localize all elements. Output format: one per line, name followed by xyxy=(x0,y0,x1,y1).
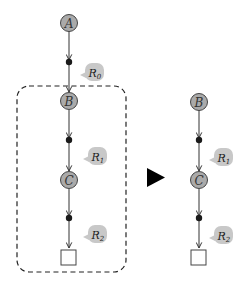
annotation-r1: R1 xyxy=(83,147,107,165)
right-chain: B R1 C R2 xyxy=(191,94,234,266)
annotation-r0: R0 xyxy=(80,63,104,81)
r2-label: R xyxy=(91,229,100,242)
right-dot-r1 xyxy=(196,137,202,143)
right-node-c: C xyxy=(191,172,208,189)
dot-r0 xyxy=(66,59,72,65)
node-c: C xyxy=(61,172,78,189)
r0-label: R xyxy=(88,67,97,80)
dot-r2 xyxy=(66,215,72,221)
node-a: A xyxy=(61,15,78,32)
right-r2-sub: 2 xyxy=(225,236,231,244)
right-dot-r2 xyxy=(196,215,202,221)
right-end-node-square xyxy=(191,250,206,265)
r0-sub: 0 xyxy=(97,73,102,81)
right-r1-sub: 1 xyxy=(226,158,230,166)
end-node-square xyxy=(61,250,76,265)
node-b-label: B xyxy=(64,95,74,109)
right-node-b: B xyxy=(191,94,208,111)
right-r2-label: R xyxy=(217,230,226,243)
r2-sub: 2 xyxy=(99,235,105,243)
right-r1-label: R xyxy=(217,152,226,165)
r1-sub: 1 xyxy=(100,157,104,165)
right-annotation-r1: R1 xyxy=(209,148,233,166)
left-chain: A R0 B R1 C R2 xyxy=(17,15,126,273)
dot-r1 xyxy=(66,137,72,143)
node-b: B xyxy=(61,93,78,110)
right-annotation-r2: R2 xyxy=(209,226,233,244)
right-node-c-label: C xyxy=(194,174,203,188)
r1-label: R xyxy=(91,151,100,164)
node-c-label: C xyxy=(64,174,73,188)
diagram-canvas: A R0 B R1 C R2 xyxy=(0,0,250,287)
node-a-label: A xyxy=(64,17,74,31)
transform-arrow-icon xyxy=(147,168,165,187)
annotation-r2: R2 xyxy=(83,225,107,243)
right-node-b-label: B xyxy=(194,96,204,110)
